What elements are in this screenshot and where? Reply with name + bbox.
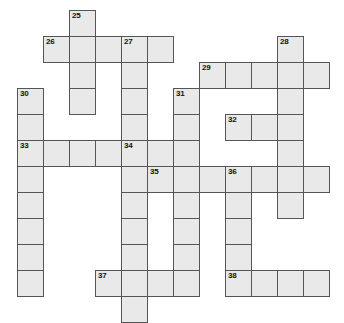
crossword-cell[interactable] bbox=[69, 140, 96, 167]
clue-number-35: 35 bbox=[150, 167, 159, 177]
clue-number-36: 36 bbox=[228, 167, 237, 177]
crossword-cell[interactable] bbox=[147, 36, 174, 63]
crossword-cell[interactable] bbox=[121, 218, 148, 245]
crossword-cell[interactable] bbox=[303, 270, 330, 297]
crossword-cell-numbered-35[interactable]: 35 bbox=[147, 166, 174, 193]
crossword-cell[interactable] bbox=[17, 244, 44, 271]
clue-number-29: 29 bbox=[202, 63, 211, 73]
crossword-cell[interactable] bbox=[251, 166, 278, 193]
crossword-cell[interactable] bbox=[17, 192, 44, 219]
clue-number-28: 28 bbox=[280, 37, 289, 47]
crossword-cell[interactable] bbox=[69, 62, 96, 89]
clue-number-33: 33 bbox=[20, 141, 29, 151]
crossword-cell[interactable] bbox=[43, 140, 70, 167]
crossword-cell[interactable] bbox=[173, 270, 200, 297]
crossword-cell[interactable] bbox=[277, 114, 304, 141]
crossword-cell-numbered-38[interactable]: 38 bbox=[225, 270, 252, 297]
crossword-cell[interactable] bbox=[147, 140, 174, 167]
crossword-cell[interactable] bbox=[173, 244, 200, 271]
clue-number-38: 38 bbox=[228, 271, 237, 281]
crossword-cell[interactable] bbox=[251, 114, 278, 141]
crossword-cell[interactable] bbox=[17, 114, 44, 141]
crossword-cell[interactable] bbox=[121, 244, 148, 271]
crossword-cell[interactable] bbox=[225, 62, 252, 89]
crossword-cell[interactable] bbox=[95, 36, 122, 63]
crossword-cell[interactable] bbox=[17, 218, 44, 245]
crossword-cell-numbered-28[interactable]: 28 bbox=[277, 36, 304, 63]
crossword-cell-numbered-33[interactable]: 33 bbox=[17, 140, 44, 167]
clue-number-31: 31 bbox=[176, 89, 185, 99]
crossword-cell[interactable] bbox=[225, 192, 252, 219]
clue-number-30: 30 bbox=[20, 89, 29, 99]
crossword-cell-numbered-37[interactable]: 37 bbox=[95, 270, 122, 297]
crossword-cell[interactable] bbox=[95, 140, 122, 167]
crossword-cell[interactable] bbox=[17, 270, 44, 297]
crossword-cell[interactable] bbox=[199, 166, 226, 193]
crossword-cell[interactable] bbox=[121, 62, 148, 89]
crossword-cell[interactable] bbox=[225, 218, 252, 245]
clue-number-32: 32 bbox=[228, 115, 237, 125]
crossword-cell[interactable] bbox=[17, 166, 44, 193]
crossword-cell-numbered-30[interactable]: 30 bbox=[17, 88, 44, 115]
crossword-cell-numbered-25[interactable]: 25 bbox=[69, 10, 96, 37]
crossword-cell-numbered-29[interactable]: 29 bbox=[199, 62, 226, 89]
clue-number-25: 25 bbox=[72, 11, 81, 21]
crossword-cell[interactable] bbox=[277, 166, 304, 193]
clue-number-34: 34 bbox=[124, 141, 133, 151]
crossword-cell-numbered-27[interactable]: 27 bbox=[121, 36, 148, 63]
crossword-cell[interactable] bbox=[251, 270, 278, 297]
crossword-cell[interactable] bbox=[173, 192, 200, 219]
crossword-cell[interactable] bbox=[121, 296, 148, 323]
clue-number-27: 27 bbox=[124, 37, 133, 47]
crossword-cell[interactable] bbox=[277, 270, 304, 297]
crossword-cell-numbered-34[interactable]: 34 bbox=[121, 140, 148, 167]
crossword-cell[interactable] bbox=[277, 140, 304, 167]
crossword-cell-numbered-32[interactable]: 32 bbox=[225, 114, 252, 141]
crossword-cell[interactable] bbox=[173, 140, 200, 167]
crossword-cell[interactable] bbox=[277, 192, 304, 219]
clue-number-26: 26 bbox=[46, 37, 55, 47]
crossword-cell[interactable] bbox=[121, 166, 148, 193]
crossword-cell[interactable] bbox=[251, 62, 278, 89]
crossword-cell[interactable] bbox=[173, 166, 200, 193]
crossword-cell-numbered-36[interactable]: 36 bbox=[225, 166, 252, 193]
crossword-cell[interactable] bbox=[173, 114, 200, 141]
crossword-cell[interactable] bbox=[121, 270, 148, 297]
crossword-cell-numbered-31[interactable]: 31 bbox=[173, 88, 200, 115]
crossword-cell[interactable] bbox=[69, 88, 96, 115]
crossword-cell[interactable] bbox=[121, 88, 148, 115]
crossword-cell[interactable] bbox=[147, 270, 174, 297]
crossword-cell[interactable] bbox=[173, 218, 200, 245]
crossword-cell-numbered-26[interactable]: 26 bbox=[43, 36, 70, 63]
crossword-cell[interactable] bbox=[303, 166, 330, 193]
crossword-cell[interactable] bbox=[225, 244, 252, 271]
crossword-cell[interactable] bbox=[121, 192, 148, 219]
crossword-cell[interactable] bbox=[277, 62, 304, 89]
clue-number-37: 37 bbox=[98, 271, 107, 281]
crossword-cell[interactable] bbox=[277, 88, 304, 115]
crossword-cell[interactable] bbox=[303, 62, 330, 89]
crossword-cell[interactable] bbox=[69, 36, 96, 63]
crossword-cell[interactable] bbox=[121, 114, 148, 141]
